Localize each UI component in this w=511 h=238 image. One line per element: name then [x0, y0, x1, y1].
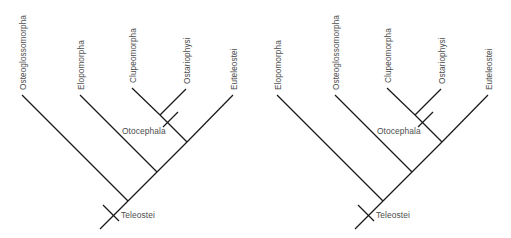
tip-label-3: Clupeomorpha — [384, 28, 393, 83]
tip-label-5: Euteleostei — [485, 48, 494, 90]
tip-label-3: Clupeomorpha — [129, 28, 138, 83]
right-cladogram: Elopomorpha Osteoglossomorpha Clupeomorp… — [255, 0, 511, 238]
branch-to-tip-5 — [187, 95, 233, 142]
tip-label-5: Euteleostei — [230, 48, 239, 90]
branch-node-a-to-node-b — [412, 142, 442, 172]
branch-to-tip-4 — [415, 89, 441, 115]
branch-teleostei-to-node-a — [128, 172, 157, 201]
tip-label-2: Osteoglossomorpha — [332, 15, 341, 90]
branch-to-tip-3 — [132, 88, 160, 115]
branch-to-tip-1 — [277, 95, 383, 201]
left-cladogram: Osteoglossomorpha Elopomorpha Clupeomorp… — [0, 0, 256, 238]
tip-label-1: Osteoglossomorpha — [19, 15, 28, 90]
branch-to-tip-1 — [22, 95, 128, 201]
node-label-teleostei: Teleostei — [121, 210, 155, 220]
tip-label-4: Ostariophysi — [183, 37, 192, 84]
tip-label-2: Elopomorpha — [77, 40, 86, 90]
cladogram-figure: Osteoglossomorpha Elopomorpha Clupeomorp… — [0, 0, 511, 238]
branch-to-tip-5 — [442, 95, 488, 142]
node-label-otocephala: Otocephala — [377, 126, 421, 136]
branch-node-a-to-node-b — [157, 142, 187, 172]
node-label-teleostei: Teleostei — [376, 210, 410, 220]
tip-label-4: Ostariophysi — [438, 37, 447, 84]
branch-teleostei-to-node-a — [383, 172, 412, 201]
branch-to-tip-4 — [160, 89, 186, 115]
branch-to-tip-3 — [387, 88, 415, 115]
tip-label-1: Elopomorpha — [274, 40, 283, 90]
node-label-otocephala: Otocephala — [122, 126, 166, 136]
